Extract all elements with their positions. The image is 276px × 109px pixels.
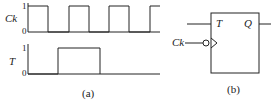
ck-high-label: 1: [22, 1, 27, 11]
t-high-label: 1: [22, 43, 27, 53]
ck-waveform: [28, 3, 160, 32]
t-flipflop-block: [185, 13, 271, 73]
clock-triangle-icon: [211, 38, 217, 48]
block-t-label: T: [216, 17, 222, 29]
t-waveform: [28, 44, 160, 74]
t-signal-label: T: [9, 55, 15, 67]
t-low-label: 0: [22, 68, 27, 78]
caption-a: (a): [82, 87, 94, 99]
ck-signal-label: Ck: [5, 12, 17, 24]
caption-b: (b): [227, 83, 240, 95]
inversion-bubble-icon: [203, 40, 209, 46]
ck-low-label: 0: [22, 26, 27, 36]
block-ck-label: Ck: [172, 36, 184, 48]
block-q-label: Q: [244, 17, 252, 29]
